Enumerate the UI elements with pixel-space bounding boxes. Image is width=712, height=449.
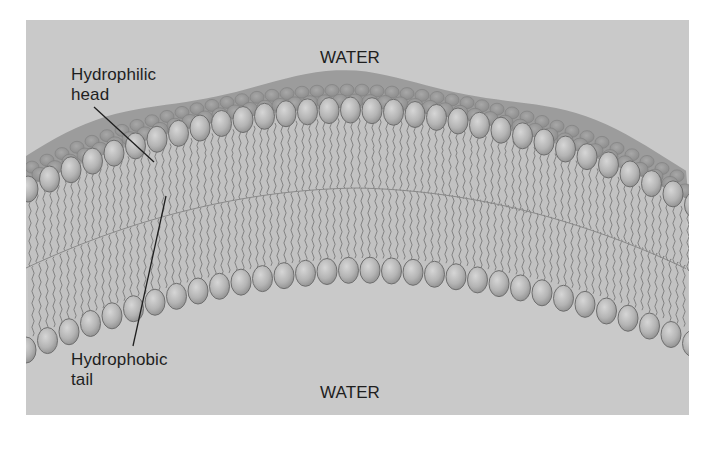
tail-label-line2: tail <box>71 370 168 390</box>
water-label-top: WATER <box>320 48 380 68</box>
water-text: WATER <box>320 48 380 67</box>
bilayer-group <box>26 70 689 363</box>
head-label-line1: Hydrophilic <box>71 65 156 85</box>
head-label-line2: head <box>71 85 156 105</box>
membrane-diagram: WATER Hydrophilic head Hydrophobic tail … <box>26 20 689 415</box>
water-text: WATER <box>320 383 380 402</box>
hydrophilic-head-label: Hydrophilic head <box>71 65 156 105</box>
tail-label-line1: Hydrophobic <box>71 350 168 370</box>
water-label-bottom: WATER <box>320 383 380 403</box>
hydrophobic-tail-label: Hydrophobic tail <box>71 350 168 390</box>
